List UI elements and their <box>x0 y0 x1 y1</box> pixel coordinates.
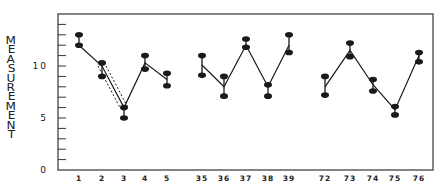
y-tick-label: 5 <box>40 113 48 123</box>
x-tick-label: 3 <box>121 174 127 183</box>
x-tick-label: 4 <box>142 174 148 183</box>
x-tick-label: 36 <box>218 174 230 183</box>
x-tick-label: 73 <box>344 174 356 183</box>
x-tick-label: 35 <box>196 174 208 183</box>
x-tick-label: 72 <box>319 174 331 183</box>
lower-marker <box>198 73 206 79</box>
y-tick-label: 10 <box>33 61 48 71</box>
x-tick-label: 76 <box>413 174 425 183</box>
x-tick-label: 38 <box>262 174 274 183</box>
upper-marker <box>369 77 377 83</box>
lower-marker <box>264 93 272 99</box>
lower-marker <box>98 74 106 80</box>
upper-marker <box>120 105 128 111</box>
lower-marker <box>391 112 399 118</box>
dashed-band-line <box>98 66 120 108</box>
upper-marker <box>415 50 423 56</box>
x-tick-label: 75 <box>389 174 401 183</box>
upper-marker <box>242 36 250 42</box>
upper-marker <box>98 60 106 66</box>
x-tick-label: 2 <box>99 174 105 183</box>
x-tick-label: 1 <box>76 174 82 183</box>
x-tick-label: 37 <box>240 174 252 183</box>
chart-canvas: 05101234535363738397273747576 <box>0 0 442 186</box>
x-tick-label: 74 <box>367 174 379 183</box>
lower-marker <box>415 59 423 65</box>
lower-marker <box>120 115 128 121</box>
x-tick-label: 39 <box>283 174 295 183</box>
lower-marker <box>321 92 329 98</box>
upper-marker <box>321 74 329 80</box>
upper-marker <box>285 32 293 38</box>
lower-marker <box>220 93 228 99</box>
upper-marker <box>198 53 206 59</box>
upper-marker <box>346 40 354 46</box>
lower-marker <box>141 66 149 72</box>
lower-marker <box>75 42 83 48</box>
y-tick-label: 0 <box>40 165 48 175</box>
series-line <box>202 45 289 87</box>
lower-marker <box>285 50 293 56</box>
upper-marker <box>141 53 149 59</box>
lower-marker <box>369 88 377 94</box>
upper-marker <box>391 104 399 110</box>
lower-marker <box>242 44 250 50</box>
upper-marker <box>264 82 272 88</box>
upper-marker <box>220 74 228 80</box>
lower-marker <box>346 54 354 60</box>
lower-marker <box>163 83 171 89</box>
upper-marker <box>75 32 83 38</box>
upper-marker <box>163 70 171 76</box>
x-tick-label: 5 <box>164 174 170 183</box>
